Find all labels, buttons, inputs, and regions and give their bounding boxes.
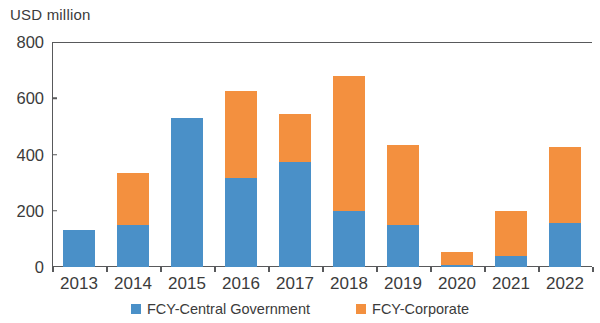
x-tick-label: 2018	[330, 274, 368, 294]
x-tick-mark	[484, 267, 486, 272]
legend-swatch	[131, 304, 141, 314]
x-tick-mark	[430, 267, 432, 272]
x-tick-label: 2013	[60, 274, 98, 294]
x-tick-mark	[52, 267, 54, 272]
chart-legend: FCY-Central GovernmentFCY-Corporate	[0, 301, 600, 317]
x-tick-mark	[268, 267, 270, 272]
x-tick-label: 2021	[492, 274, 530, 294]
legend-item[interactable]: FCY-Corporate	[356, 301, 469, 317]
x-tick-label: 2022	[546, 274, 584, 294]
x-tick-label: 2017	[276, 274, 314, 294]
x-tick-mark	[322, 267, 324, 272]
legend-label: FCY-Central Government	[147, 301, 310, 317]
x-tick-mark	[160, 267, 162, 272]
x-tick-label: 2016	[222, 274, 260, 294]
x-tick-label: 2020	[438, 274, 476, 294]
x-tick-mark	[214, 267, 216, 272]
legend-swatch	[356, 304, 366, 314]
x-tick-mark	[538, 267, 540, 272]
x-tick-label: 2014	[114, 274, 152, 294]
x-tick-mark	[376, 267, 378, 272]
legend-label: FCY-Corporate	[372, 301, 469, 317]
x-tick-label: 2015	[168, 274, 206, 294]
x-tick-label: 2019	[384, 274, 422, 294]
x-tick-mark	[106, 267, 108, 272]
x-axis: 2013201420152016201720182019202020212022	[0, 0, 600, 323]
stacked-bar-chart: USD million 0200400600800 20132014201520…	[0, 0, 600, 323]
legend-item[interactable]: FCY-Central Government	[131, 301, 310, 317]
x-tick-mark	[592, 267, 594, 272]
